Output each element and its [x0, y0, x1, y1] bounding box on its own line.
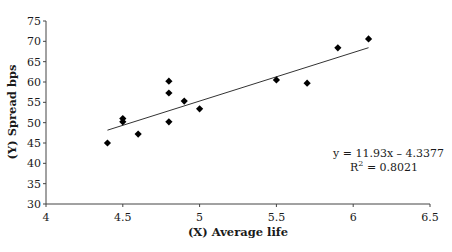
trendline-equation: y = 11.93x – 4.3377	[332, 147, 444, 160]
y-tick-label: 70	[27, 35, 41, 48]
x-tick-label: 6	[350, 211, 357, 224]
data-points	[104, 35, 372, 146]
y-tick-label: 30	[27, 198, 41, 211]
scatter-chart: 30354045505560657075 44.555.566.5 y = 11…	[0, 0, 452, 252]
data-point-marker	[181, 98, 188, 105]
y-tick-label: 45	[27, 137, 41, 150]
r-squared-label: R2 = 0.8021	[350, 159, 418, 174]
x-tick-label: 5.5	[268, 211, 286, 224]
x-axis-title: (X) Average life	[188, 225, 288, 239]
x-tick-label: 6.5	[421, 211, 439, 224]
x-axis: 44.555.566.5	[43, 204, 439, 224]
y-tick-label: 65	[27, 56, 41, 69]
y-tick-label: 35	[27, 178, 41, 191]
data-point-marker	[365, 35, 372, 42]
x-tick-label: 5	[196, 211, 203, 224]
data-point-marker	[304, 80, 311, 87]
data-point-marker	[196, 105, 203, 112]
data-point-marker	[165, 89, 172, 96]
data-point-marker	[334, 44, 341, 51]
y-tick-label: 60	[27, 76, 41, 89]
y-tick-label: 55	[27, 96, 41, 109]
x-tick-label: 4.5	[114, 211, 132, 224]
trendline	[107, 48, 368, 130]
x-tick-label: 4	[43, 211, 50, 224]
data-point-marker	[104, 139, 111, 146]
data-point-marker	[135, 130, 142, 137]
y-tick-label: 50	[27, 117, 41, 130]
y-tick-label: 40	[27, 157, 41, 170]
data-point-marker	[165, 118, 172, 125]
data-point-marker	[165, 78, 172, 85]
y-axis-title: (Y) Spread bps	[5, 65, 19, 160]
y-axis: 30354045505560657075	[27, 15, 46, 211]
y-tick-label: 75	[27, 15, 41, 28]
